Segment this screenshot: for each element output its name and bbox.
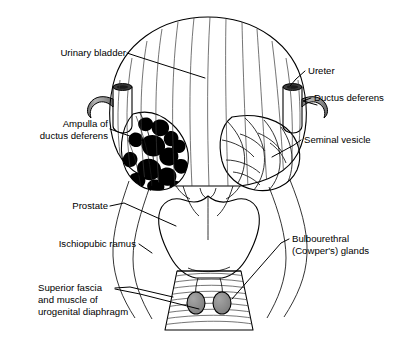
seminal-vesicle-lobules [222, 118, 292, 192]
label-seminal-vesicle: Seminal vesicle [304, 134, 371, 145]
ischiopubic-ramus-left [113, 181, 152, 319]
label-bulbourethral-line1: Bulbourethral [292, 233, 349, 244]
urogenital-diaphragm [162, 271, 258, 330]
label-urinary-bladder: Urinary bladder [60, 47, 126, 58]
label-superior-fascia-line2: and muscle of [38, 294, 98, 305]
ureter-left [113, 84, 132, 133]
label-ureter: Ureter [308, 65, 335, 76]
label-superior-fascia-line1: Superior fascia [38, 282, 103, 293]
urinary-bladder [110, 17, 306, 216]
leader-ischiopubic-ramus [139, 244, 152, 253]
leader-urinary-bladder [127, 53, 205, 78]
bulbourethral-gland-left [187, 292, 205, 314]
label-ductus-deferens: Ductus deferens [314, 92, 384, 103]
label-superior-fascia-line3: urogenital diaphragm [38, 306, 128, 317]
label-ischiopubic-ramus: Ischiopubic ramus [59, 238, 137, 249]
bulbourethral-gland-right [213, 292, 231, 314]
prostate [159, 196, 260, 278]
anatomy-diagram-canvas: Urinary bladder Ureter Ductus deferens A… [0, 0, 415, 345]
diaphragm-striations [162, 273, 258, 325]
label-bulbourethral-line2: (Cowper's) glands [292, 245, 369, 256]
label-ampulla-line2: ductus deferens [40, 130, 108, 141]
seminal-vesicle [220, 115, 300, 192]
label-prostate: Prostate [72, 200, 108, 211]
label-ampulla-line1: Ampulla of [63, 118, 109, 129]
ductus-deferens-left [87, 97, 113, 118]
anatomical-figure: Urinary bladder Ureter Ductus deferens A… [0, 0, 415, 345]
